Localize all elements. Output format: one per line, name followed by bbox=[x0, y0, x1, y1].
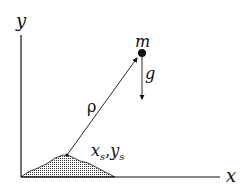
y-axis-label: y bbox=[16, 12, 26, 30]
source-x-label: x bbox=[91, 141, 100, 160]
distance-label: ρ bbox=[87, 99, 96, 115]
source-y-subscript: s bbox=[119, 151, 124, 162]
gravity-label: g bbox=[145, 66, 155, 82]
x-axis-label: x bbox=[226, 167, 236, 185]
source-y-label: y bbox=[110, 141, 119, 160]
mass-label: m bbox=[135, 34, 150, 50]
rho-vector-arrow bbox=[67, 58, 137, 155]
source-point bbox=[65, 153, 68, 156]
source-coordinates-label: xs,ys bbox=[91, 143, 124, 162]
